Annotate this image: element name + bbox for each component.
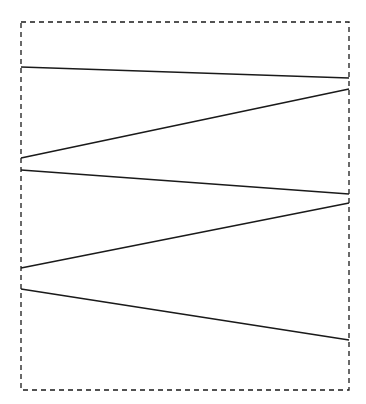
zigzag-lines [21, 67, 349, 340]
zigzag-diagram [0, 0, 366, 404]
line-segment-4 [21, 203, 349, 268]
line-segment-1 [21, 67, 349, 78]
dashed-frame [21, 22, 349, 390]
line-segment-2 [21, 89, 349, 158]
line-segment-3 [21, 170, 349, 194]
line-segment-5 [21, 289, 349, 340]
